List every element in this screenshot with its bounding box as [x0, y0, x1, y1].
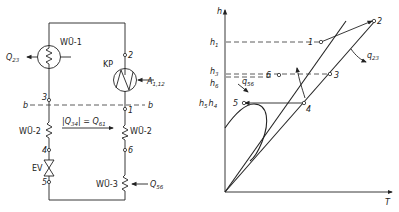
- svg-text:5: 5: [42, 178, 47, 187]
- internal-heat-arrow-chart: [297, 68, 305, 98]
- heat-exchanger-1: [27, 46, 71, 70]
- point-5: [242, 101, 245, 104]
- svg-text:b: b: [23, 101, 28, 110]
- svg-text:1: 1: [128, 106, 133, 115]
- label-h6: h6: [210, 79, 219, 89]
- label-kp: KP: [103, 60, 113, 69]
- svg-text:3: 3: [42, 93, 47, 102]
- line-432: [225, 21, 375, 192]
- y-axis-label: h: [217, 7, 222, 16]
- svg-text:b: b: [148, 101, 153, 110]
- svg-text:WÜ-2: WÜ-2: [130, 126, 152, 136]
- x-axis-label: T: [385, 198, 391, 207]
- svg-text:6: 6: [128, 146, 133, 155]
- label-h5-h4: h5h4: [199, 99, 218, 109]
- label-h1: h1: [210, 38, 219, 48]
- svg-text:1: 1: [308, 38, 313, 47]
- label-q56: Q56: [150, 180, 164, 190]
- node-6: [123, 148, 126, 151]
- svg-text:WÜ-2: WÜ-2: [19, 126, 41, 136]
- heat-exchanger-3: [122, 175, 128, 192]
- point-6: [277, 73, 280, 76]
- label-q23-chart: q23: [367, 51, 380, 61]
- svg-text:3: 3: [334, 71, 339, 80]
- heat-exchanger-2-left: [46, 122, 52, 140]
- schematic: WÜ-1 Q23 KP A1,12 2 3 b b 1 WÜ-2 WÜ-2 |Q…: [6, 23, 165, 200]
- svg-text:2: 2: [377, 17, 382, 26]
- label-q56-chart: q56: [242, 77, 255, 87]
- svg-text:2: 2: [128, 51, 133, 60]
- svg-text:6: 6: [266, 71, 271, 80]
- label-q23: Q23: [6, 53, 20, 63]
- point-1: [319, 40, 322, 43]
- label-wu1: WÜ-1: [60, 37, 82, 47]
- point-2: [372, 19, 375, 22]
- label-h3: h3: [210, 67, 219, 77]
- svg-text:WÜ-3: WÜ-3: [96, 179, 118, 189]
- node-2: [123, 53, 126, 56]
- svg-text:4: 4: [306, 105, 311, 114]
- ht-chart: h T 1 2 3 4 5 6 h1: [199, 7, 392, 207]
- label-internal-heat: |Q34| = Q61: [62, 117, 106, 127]
- expansion-valve: [44, 160, 54, 176]
- heat-exchanger-2-right: [122, 125, 128, 140]
- svg-text:4: 4: [42, 146, 47, 155]
- q23-arrow-chart: [351, 49, 366, 62]
- saturation-dome: [225, 104, 267, 161]
- node-5: [47, 180, 50, 183]
- svg-text:5: 5: [233, 99, 238, 108]
- process-1-2: [321, 21, 372, 42]
- node-1: [123, 107, 126, 110]
- label-a112: A1,12: [146, 77, 165, 87]
- node-4: [47, 148, 50, 151]
- point-3: [328, 72, 331, 75]
- node-3: [47, 98, 50, 101]
- diagram-canvas: WÜ-1 Q23 KP A1,12 2 3 b b 1 WÜ-2 WÜ-2 |Q…: [0, 0, 399, 212]
- svg-text:EV: EV: [32, 164, 43, 173]
- line-561: [225, 21, 346, 192]
